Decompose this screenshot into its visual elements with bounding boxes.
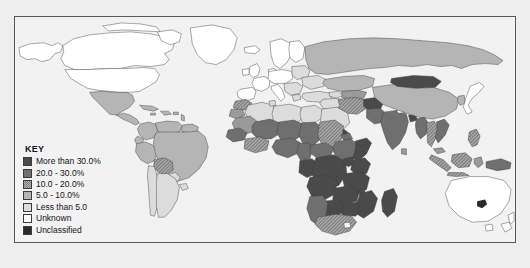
region-tasmania [485,224,493,231]
region-jamaica [150,113,155,115]
legend-swatch-unknown [23,214,32,223]
legend-item-unclassified: Unclassified [23,224,101,235]
legend-item-more-than-30: More than 30.0% [23,156,101,167]
legend-swatch-less-than-5 [23,203,32,212]
region-sri-lanka [401,149,406,155]
legend-label-less-than-5: Less than 5.0 [36,202,87,213]
legend-label-more-than-30: More than 30.0% [36,156,101,167]
legend-item-less-than-5: Less than 5.0 [23,202,101,213]
region-puerto-rico [173,112,178,114]
legend-swatch-unclassified [23,226,32,235]
legend-item-5-to-10: 5.0 - 10.0% [23,190,101,201]
legend-item-10-to-20: 10.0 - 20.0% [23,179,101,190]
legend-item-unknown: Unknown [23,213,101,224]
region-ireland [242,69,249,76]
legend-swatch-20-to-30 [23,169,32,178]
region-ivory-coast-ghana [244,137,269,153]
region-germany-poland [268,70,293,84]
world-map-figure: KEY More than 30.0% 20.0 - 30.0% 10.0 - … [14,16,516,243]
region-mongolia [390,75,441,88]
legend-title: KEY [25,144,101,154]
legend-swatch-5-to-10 [23,191,32,200]
legend-label-unknown: Unknown [36,213,71,224]
region-lesotho [344,222,351,228]
legend-swatch-10-to-20 [23,180,32,189]
legend-label-unclassified: Unclassified [36,225,82,236]
legend-swatch-more-than-30 [23,157,32,166]
legend-item-20-to-30: 20.0 - 30.0% [23,167,101,178]
legend-label-20-to-30: 20.0 - 30.0% [36,168,84,179]
region-tunisia [269,100,276,106]
legend-label-5-to-10: 5.0 - 10.0% [36,190,79,201]
map-legend: KEY More than 30.0% 20.0 - 30.0% 10.0 - … [20,142,105,239]
legend-label-10-to-20: 10.0 - 20.0% [36,179,84,190]
